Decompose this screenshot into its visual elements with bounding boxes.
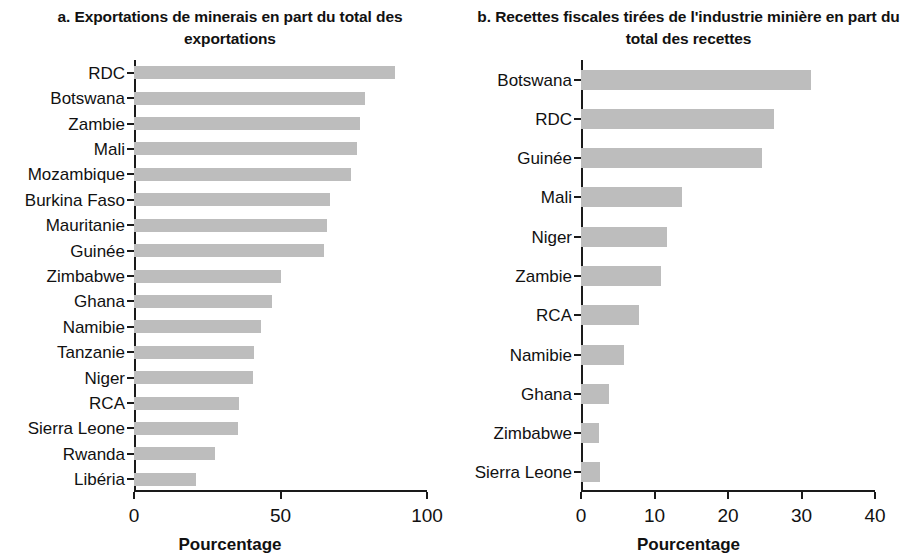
bar-row: RDC [134,66,427,79]
category-label-ghana: Ghana [521,385,572,402]
bar-row: Mozambique [134,168,427,181]
bar-rdc [581,109,774,129]
bar-botswana [581,70,811,90]
category-label-mauritanie: Mauritanie [46,217,125,234]
x-axis-tick [801,492,803,499]
y-axis-tick [127,224,134,226]
bar-row: Ghana [134,295,427,308]
y-axis-tick [127,275,134,277]
bar-row: Rwanda [134,447,427,460]
category-label-sierra-leone: Sierra Leone [475,464,572,481]
bar-niger [134,371,253,384]
x-axis-tick [727,492,729,499]
x-axis-tick-label: 10 [644,506,665,525]
chart-panel-b: b. Recettes fiscales tirées de l'industr… [460,0,917,552]
bar-row: Zimbabwe [134,270,427,283]
bar-zambie [581,266,661,286]
x-axis-tick [426,492,428,499]
bar-row: Mauritanie [134,219,427,232]
bar-mali [134,142,357,155]
bar-row: Libéria [134,473,427,486]
y-axis-tick [127,351,134,353]
x-axis-tick [280,492,282,499]
category-label-mali: Mali [541,189,572,206]
chart-panel-a: a. Exportations de minerais en part du t… [0,0,460,552]
category-label-guin-e: Guinée [70,242,125,259]
x-axis-tick [580,492,582,499]
bar-row: RDC [581,109,875,129]
bar-rdc [134,66,395,79]
x-axis-tick-label: 100 [411,506,443,525]
x-axis-tick [133,492,135,499]
bar-namibie [581,345,624,365]
bar-rca [581,305,639,325]
category-label-zambie: Zambie [68,115,125,132]
bar-row: Zambie [581,266,875,286]
bar-tanzanie [134,346,254,359]
bar-row: Tanzanie [134,346,427,359]
bar-rwanda [134,447,215,460]
y-axis-tick [574,157,581,159]
bar-guin-e [581,148,762,168]
bar-row: Sierra Leone [134,422,427,435]
bar-row: Guinée [134,244,427,257]
panel-b-x-axis-title: Pourcentage [460,535,917,555]
x-axis-tick-label: 30 [791,506,812,525]
category-label-rca: RCA [89,395,125,412]
y-axis-tick [127,402,134,404]
bar-row: Namibie [134,320,427,333]
category-label-sierra-leone: Sierra Leone [28,420,125,437]
bar-row: Mali [581,187,875,207]
x-axis-tick-label: 0 [576,506,587,525]
category-label-niger: Niger [531,228,572,245]
bar-ghana [134,295,272,308]
y-axis-tick [574,354,581,356]
x-axis-tick-label: 40 [864,506,885,525]
bar-zimbabwe [134,270,281,283]
x-axis-tick [654,492,656,499]
y-axis-tick [127,453,134,455]
bar-zimbabwe [581,423,599,443]
category-label-botswana: Botswana [497,71,572,88]
y-axis-tick [127,72,134,74]
bar-namibie [134,320,261,333]
bar-row: Burkina Faso [134,193,427,206]
y-axis-tick [127,300,134,302]
bar-rca [134,397,239,410]
category-label-zimbabwe: Zimbabwe [494,425,572,442]
bar-row: Sierra Leone [581,462,875,482]
bar-zambie [134,117,360,130]
panel-a-x-axis-title: Pourcentage [0,535,460,555]
bar-niger [581,227,667,247]
bar-row: RCA [581,305,875,325]
panel-a-title: a. Exportations de minerais en part du t… [0,6,460,50]
y-axis-tick [127,173,134,175]
category-label-rca: RCA [536,307,572,324]
bar-row: RCA [134,397,427,410]
category-label-botswana: Botswana [50,90,125,107]
category-label-zambie: Zambie [515,268,572,285]
x-axis-tick [874,492,876,499]
category-label-burkina-faso: Burkina Faso [25,191,125,208]
y-axis-tick [127,326,134,328]
y-axis-tick [127,97,134,99]
y-axis-tick [574,196,581,198]
bar-row: Niger [581,227,875,247]
category-label-tanzanie: Tanzanie [57,344,125,361]
category-label-niger: Niger [84,369,125,386]
bar-ghana [581,384,609,404]
category-label-guin-e: Guinée [517,150,572,167]
y-axis-tick [127,148,134,150]
bar-burkina-faso [134,193,330,206]
x-axis-tick-label: 20 [717,506,738,525]
category-label-namibie: Namibie [510,346,572,363]
y-axis-tick [127,199,134,201]
category-label-rdc: RDC [88,64,125,81]
panel-a-plot-area: Pourcentage RDCBotswanaZambieMaliMozambi… [134,60,427,492]
bar-row: Ghana [581,384,875,404]
panel-b-plot-area: Pourcentage BotswanaRDCGuinéeMaliNigerZa… [581,60,875,492]
category-label-mozambique: Mozambique [28,166,125,183]
y-axis-tick [127,377,134,379]
y-axis-tick [574,314,581,316]
